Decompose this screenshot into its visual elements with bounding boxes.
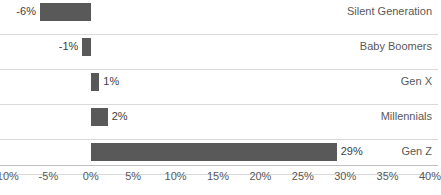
bar-value-label: 2% [112,107,128,126]
x-axis-tick-label: 30% [334,169,356,183]
category-label-gen-x: Gen X [401,72,432,91]
category-label-millennials: Millennials [381,107,432,126]
x-axis-tick-label: 5% [125,169,141,183]
chart-row: 1% Gen X [0,70,438,105]
x-axis-tick-label: 35% [377,169,399,183]
x-axis-tick-label: -5% [39,169,59,183]
x-axis-tick-label: 0% [83,169,99,183]
bar-value-label: 1% [103,72,119,91]
x-axis-tick-label: 25% [292,169,314,183]
x-axis-tick-label: 15% [207,169,229,183]
x-axis-tick-label: 10% [165,169,187,183]
plot-area: -6% Silent Generation -1% Baby Boomers 1… [0,0,438,165]
x-axis: -10%-5%0%5%10%15%20%25%30%35%40% [0,165,438,195]
x-axis-tick-label: 40% [419,169,441,183]
chart-row: -1% Baby Boomers [0,35,438,70]
category-label-gen-z: Gen Z [401,142,432,161]
category-label-silent-generation: Silent Generation [347,2,432,21]
bar-gen-z [91,143,337,161]
x-axis-tick-label: 20% [249,169,271,183]
bar-gen-x [91,73,99,91]
bar-value-label: -6% [16,2,36,21]
chart-row: -6% Silent Generation [0,0,438,35]
x-axis-tick-label: -10% [0,169,19,183]
bar-value-label: -1% [59,37,79,56]
x-axis-line [0,165,438,166]
chart-row: 2% Millennials [0,105,438,140]
bar-silent-generation [40,3,91,21]
bar-millennials [91,108,108,126]
bar-value-label: 29% [341,142,363,161]
category-label-baby-boomers: Baby Boomers [360,37,432,56]
bar-baby-boomers [82,38,90,56]
